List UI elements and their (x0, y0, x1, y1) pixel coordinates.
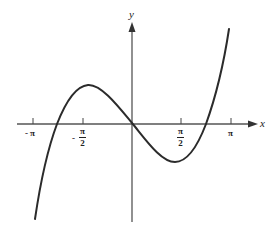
tick-label-neg-pi: π (30, 128, 35, 138)
tick-label-neg-pi-sign: - (25, 128, 28, 138)
function-graph (0, 0, 275, 229)
x-axis-label: x (260, 118, 265, 129)
tick-label-half-pi-num: π (177, 127, 184, 138)
tick-label-neg-half-pi-den: 2 (79, 138, 86, 148)
x-axis-arrow-icon (248, 121, 258, 128)
y-axis-label: y (129, 9, 134, 20)
tick-label-half-pi-den: 2 (177, 138, 184, 148)
tick-label-pi: π (228, 128, 233, 138)
tick-label-neg-half-pi-sign: - (72, 133, 75, 143)
tick-label-half-pi: π 2 (177, 127, 184, 148)
tick-label-neg-half-pi-num: π (79, 127, 86, 138)
tick-label-neg-half-pi: π 2 (79, 127, 86, 148)
y-axis-arrow-icon (129, 22, 136, 32)
